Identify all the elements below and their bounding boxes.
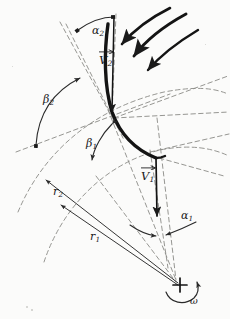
label-beta-1: β1 [86,138,97,150]
vector-v2 [112,16,114,112]
label-v-2: V2 [99,55,112,68]
blade-trailing-segment [156,156,165,158]
vector-v1 [156,158,157,216]
rotation-center-cross [173,278,187,292]
blade-profile-group [105,24,165,158]
spoke-lower-right [150,134,229,152]
arc-beta-2 [36,78,80,145]
arc-alpha-1-right [166,222,196,235]
label-v-1: V1 [141,171,154,184]
construction-lines-group [16,14,229,282]
spoke-right [114,112,229,118]
label-beta-2: β2 [43,94,54,106]
arc-inner-radius [44,147,229,262]
diagram-canvas [0,0,230,319]
spoke-upper-right [114,76,228,118]
velocity-diagram-figure: α2 β2 β1 α1 V2 V1 r2 r1 ω [0,0,230,319]
label-alpha-1: α1 [181,210,193,222]
radius-lines-group [46,180,178,285]
label-r-2: r2 [53,186,63,198]
label-alpha-2: α2 [92,25,104,37]
radius-line-r2 [46,180,178,283]
label-omega: ω [190,296,198,306]
flow-streamlines-group [122,8,198,70]
velocity-vectors-group [112,16,157,216]
streamline-3 [148,30,198,70]
label-r-1: r1 [90,231,100,243]
streamline-2 [134,14,186,56]
reference-line-v1 [150,150,168,268]
radius-line-r1 [61,205,178,285]
streamline-1 [122,8,170,44]
